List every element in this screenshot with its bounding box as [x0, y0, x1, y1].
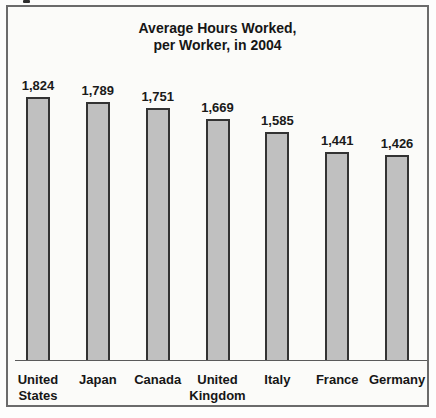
- bar-value-label: 1,426: [381, 136, 414, 151]
- bar: [86, 102, 110, 361]
- category-label: Germany: [367, 372, 427, 388]
- bar-value-label: 1,789: [82, 83, 115, 98]
- bar: [385, 155, 409, 361]
- category-label: United States: [8, 372, 68, 404]
- bar-column: 1,669: [188, 100, 248, 361]
- bars-row: 1,8241,7891,7511,6691,5851,4411,426: [8, 21, 427, 361]
- bar-column: 1,824: [8, 78, 68, 361]
- bar-column: 1,585: [247, 113, 307, 361]
- x-axis-line: [15, 360, 427, 361]
- chart-page: Average Hours Worked, per Worker, in 200…: [0, 0, 436, 418]
- category-labels-row: United StatesJapanCanadaUnited KingdomIt…: [8, 372, 427, 404]
- bar-value-label: 1,824: [22, 78, 55, 93]
- bar-value-label: 1,441: [321, 133, 354, 148]
- bar: [26, 97, 50, 361]
- bar-value-label: 1,585: [261, 113, 294, 128]
- plot-area: 1,8241,7891,7511,6691,5851,4411,426 Unit…: [8, 7, 427, 405]
- bar-value-label: 1,669: [201, 100, 234, 115]
- bar-value-label: 1,751: [141, 89, 174, 104]
- bar: [265, 132, 289, 361]
- bar-column: 1,426: [367, 136, 427, 361]
- category-label: Japan: [68, 372, 128, 388]
- bar: [325, 152, 349, 361]
- bar-column: 1,789: [68, 83, 128, 361]
- bar: [206, 119, 230, 361]
- bar-chart-frame: Average Hours Worked, per Worker, in 200…: [6, 5, 429, 407]
- bar-column: 1,441: [307, 133, 367, 361]
- category-label: France: [307, 372, 367, 388]
- category-label: Canada: [128, 372, 188, 388]
- category-label: United Kingdom: [188, 372, 248, 404]
- category-label: Italy: [247, 372, 307, 388]
- scan-artifact-mark: [23, 0, 30, 3]
- bar-column: 1,751: [128, 89, 188, 361]
- bar: [146, 108, 170, 361]
